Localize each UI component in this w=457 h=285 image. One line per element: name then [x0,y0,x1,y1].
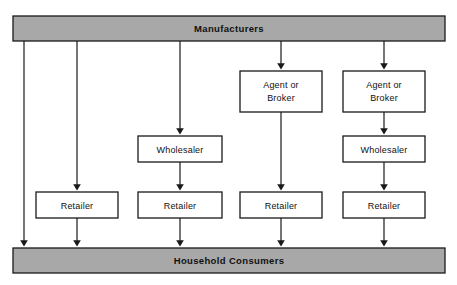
node-wholesaler-1: Wholesaler [138,136,222,162]
agent-2-label-line2: Broker [370,93,398,103]
node-agent-1: Agent or Broker [240,71,322,112]
household-consumers-label: Household Consumers [174,255,285,266]
wholesaler-2-label: Wholesaler [360,145,407,155]
agent-1-box [240,71,322,112]
channel-diagram: Manufacturers Agent or Broker Agent or B… [0,0,457,285]
node-agent-2: Agent or Broker [343,71,425,112]
agent-1-label-line2: Broker [267,93,295,103]
manufacturers-label: Manufacturers [194,23,264,34]
retailer-1-label: Retailer [61,201,94,211]
node-retailer-2: Retailer [138,192,222,218]
node-manufacturers: Manufacturers [13,16,445,41]
channel-diagram-canvas: Manufacturers Agent or Broker Agent or B… [0,0,457,285]
node-retailer-4: Retailer [343,192,425,218]
node-household-consumers: Household Consumers [13,248,445,273]
retailer-4-label: Retailer [368,201,401,211]
agent-1-label-line1: Agent or [263,80,299,90]
wholesaler-1-label: Wholesaler [156,145,203,155]
retailer-3-label: Retailer [265,201,298,211]
node-wholesaler-2: Wholesaler [343,136,425,162]
node-retailer-3: Retailer [240,192,322,218]
node-retailer-1: Retailer [36,192,118,218]
retailer-2-label: Retailer [164,201,197,211]
agent-2-box [343,71,425,112]
agent-2-label-line1: Agent or [366,80,402,90]
